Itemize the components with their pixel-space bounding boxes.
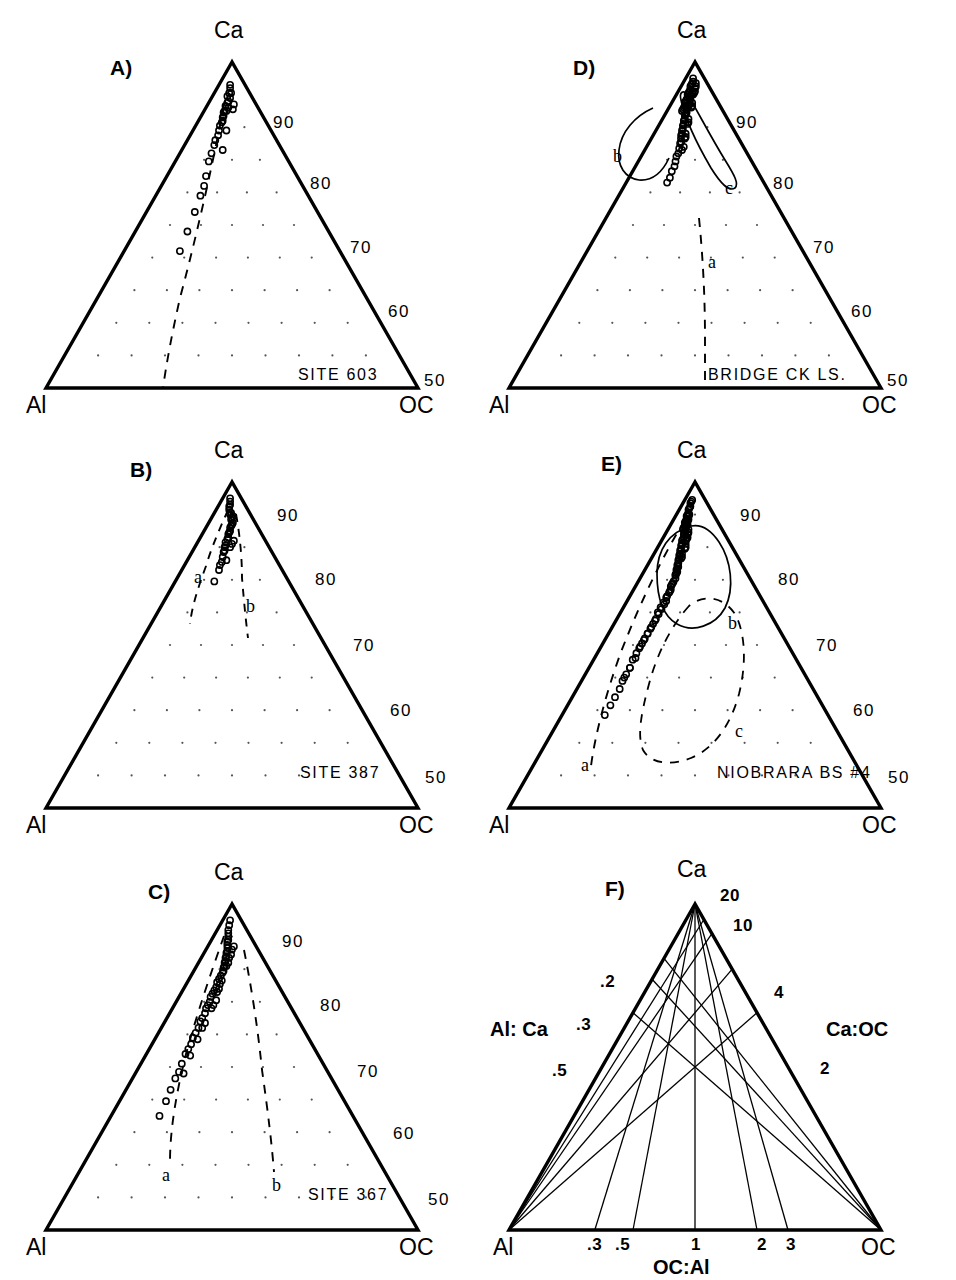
vertex-label-al: Al — [489, 812, 509, 839]
edge-tick-90: 90 — [273, 113, 295, 133]
bottom-tick-1: .5 — [615, 1235, 630, 1255]
vertex-label-oc: OC — [862, 812, 897, 839]
data-point — [179, 1061, 185, 1067]
edge-tick-50: 50 — [428, 1190, 450, 1210]
edge-tick-50: 50 — [425, 768, 447, 788]
curve-label-a: a — [194, 567, 202, 588]
curve-label-b: b — [613, 146, 622, 167]
data-point — [208, 150, 214, 156]
data-point — [645, 631, 651, 637]
panel-label: A) — [110, 56, 132, 80]
edge-tick-90: 90 — [277, 506, 299, 526]
panel-E: E) Ca Al OC 90 80 70 60 50 b c a NIOBRAR… — [463, 428, 941, 854]
data-point — [627, 665, 633, 671]
panel-caption: NIOBRARA BS #4 — [717, 764, 872, 782]
axis-title-alca: Al: Ca — [490, 1018, 548, 1041]
panel-D-svg — [463, 8, 941, 434]
left-tick-2: .5 — [552, 1061, 567, 1081]
data-point — [156, 1113, 162, 1119]
edge-tick-80: 80 — [773, 174, 795, 194]
vertex-label-al: Al — [26, 392, 46, 419]
envelope-b — [657, 526, 731, 628]
vertex-label-oc: OC — [399, 812, 434, 839]
right-tick-0: 20 — [720, 886, 740, 906]
panel-E-svg — [463, 428, 941, 854]
vertex-label-oc: OC — [399, 1234, 434, 1261]
data-point — [184, 228, 190, 234]
data-point — [192, 209, 198, 215]
panel-C: C) Ca Al OC 90 80 70 60 50 a b SITE 367 — [0, 850, 478, 1276]
data-point — [211, 578, 217, 584]
data-point — [201, 183, 207, 189]
curve-label-b: b — [246, 596, 255, 617]
edge-tick-80: 80 — [778, 570, 800, 590]
trend-curve-b — [236, 514, 248, 638]
edge-tick-60: 60 — [390, 701, 412, 721]
data-point — [163, 1098, 169, 1104]
axis-title-ocal: OC:Al — [653, 1256, 710, 1279]
trend-curve-a — [591, 520, 685, 766]
panel-caption: BRIDGE CK LS. — [708, 366, 847, 384]
vertex-label-al: Al — [489, 392, 509, 419]
right-tick-2: 4 — [774, 983, 784, 1003]
data-point — [220, 147, 226, 153]
edge-tick-80: 80 — [315, 570, 337, 590]
data-point — [197, 193, 203, 199]
data-point — [617, 686, 623, 692]
vertex-label-ca: Ca — [214, 17, 243, 44]
panel-label: C) — [148, 880, 170, 904]
data-point — [203, 173, 209, 179]
edge-tick-60: 60 — [388, 302, 410, 322]
vertex-label-oc: OC — [861, 1234, 896, 1261]
curve-label-b: b — [728, 613, 737, 634]
vertex-label-oc: OC — [399, 392, 434, 419]
curve-label-a: a — [708, 252, 716, 273]
trend-curve-a — [699, 218, 705, 388]
edge-tick-70: 70 — [357, 1062, 379, 1082]
edge-tick-60: 60 — [853, 701, 875, 721]
panel-C-svg — [0, 850, 478, 1280]
panel-caption: SITE 603 — [298, 366, 378, 384]
trend-curve-a — [170, 936, 224, 1162]
panel-B: B) Ca Al OC 90 80 70 60 50 a b SITE 387 — [0, 428, 478, 854]
data-point — [223, 127, 229, 133]
edge-tick-50: 50 — [887, 371, 909, 391]
panel-label: B) — [130, 458, 152, 482]
bottom-tick-0: .3 — [587, 1235, 602, 1255]
bottom-tick-4: 3 — [786, 1235, 796, 1255]
panel-D: D) Ca Al OC 90 80 70 60 50 b c a BRIDGE … — [463, 8, 941, 434]
data-point — [172, 1075, 178, 1081]
panel-caption: SITE 367 — [308, 1186, 388, 1204]
edge-tick-60: 60 — [393, 1124, 415, 1144]
panel-label: D) — [573, 56, 595, 80]
vertex-label-ca: Ca — [677, 17, 706, 44]
right-tick-3: 2 — [820, 1059, 830, 1079]
panel-label: F) — [605, 877, 625, 901]
data-point — [612, 694, 618, 700]
data-point — [168, 1087, 174, 1093]
edge-tick-70: 70 — [353, 636, 375, 656]
bottom-tick-2: 1 — [691, 1235, 701, 1255]
data-point — [607, 702, 613, 708]
edge-tick-90: 90 — [740, 506, 762, 526]
edge-tick-50: 50 — [888, 768, 910, 788]
edge-tick-50: 50 — [424, 371, 446, 391]
data-point — [602, 712, 608, 718]
edge-tick-80: 80 — [310, 174, 332, 194]
vertex-label-oc: OC — [862, 392, 897, 419]
vertex-label-ca: Ca — [214, 437, 243, 464]
edge-tick-70: 70 — [813, 238, 835, 258]
data-point — [206, 158, 212, 164]
panel-caption: SITE 387 — [300, 764, 380, 782]
right-tick-1: 10 — [733, 916, 753, 936]
panel-A: A) Ca Al OC 90 80 70 60 50 SITE 603 — [0, 8, 478, 434]
left-tick-1: .3 — [576, 1015, 591, 1035]
data-point — [177, 248, 183, 254]
panel-label: E) — [601, 452, 622, 476]
bottom-tick-3: 2 — [757, 1235, 767, 1255]
curve-label-a: a — [162, 1165, 170, 1186]
vertex-label-al: Al — [26, 812, 46, 839]
vertex-label-ca: Ca — [677, 437, 706, 464]
curve-label-b: b — [272, 1175, 281, 1196]
panel-F-svg — [463, 850, 941, 1280]
